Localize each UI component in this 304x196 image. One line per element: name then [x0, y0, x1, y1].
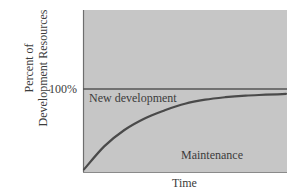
region-label-maintenance: Maintenance — [181, 148, 243, 163]
y-axis-label-line1: Percent of — [22, 8, 36, 128]
y-axis-label-line2: Development Resources — [36, 8, 50, 128]
x-axis-label: Time — [172, 176, 197, 191]
region-label-new-development: New development — [89, 91, 177, 106]
y-axis-label: Percent of Development Resources — [22, 8, 50, 128]
y-tick-100: 100% — [49, 82, 77, 97]
